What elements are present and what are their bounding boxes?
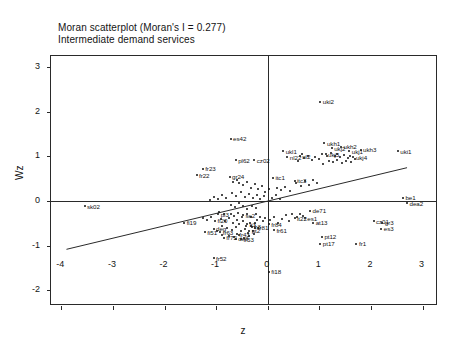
data-point bbox=[341, 162, 343, 164]
x-tick-label: -3 bbox=[108, 259, 116, 269]
data-point bbox=[336, 159, 338, 161]
data-point bbox=[319, 101, 321, 103]
point-label: fr1 bbox=[359, 240, 366, 247]
y-tick bbox=[47, 290, 51, 291]
data-point bbox=[230, 138, 232, 140]
data-point bbox=[235, 159, 237, 161]
data-point bbox=[214, 220, 216, 222]
x-tick-label: -4 bbox=[56, 259, 64, 269]
data-point bbox=[262, 220, 264, 222]
data-point bbox=[242, 214, 244, 216]
data-point bbox=[210, 216, 212, 218]
y-tick bbox=[47, 201, 51, 202]
data-point bbox=[264, 217, 266, 219]
data-point bbox=[312, 222, 314, 224]
data-point bbox=[261, 185, 263, 187]
point-label: es1 bbox=[307, 215, 317, 222]
point-label: pt2 bbox=[252, 227, 260, 234]
y-tick bbox=[47, 67, 51, 68]
data-point bbox=[246, 208, 248, 210]
data-point bbox=[308, 184, 310, 186]
data-point bbox=[321, 236, 323, 238]
data-point bbox=[251, 205, 253, 207]
data-point bbox=[229, 176, 231, 178]
point-label: pl3 bbox=[221, 211, 229, 218]
data-point bbox=[257, 188, 259, 190]
data-point bbox=[322, 163, 324, 165]
data-point bbox=[242, 220, 244, 222]
chart-title-block: Moran scatterplot (Moran's I = 0.277) In… bbox=[58, 22, 226, 46]
point-label: uki2 bbox=[323, 98, 334, 105]
data-point bbox=[319, 243, 321, 245]
point-label: itc1 bbox=[275, 174, 284, 181]
x-tick-label: 3 bbox=[419, 259, 424, 269]
data-point bbox=[246, 181, 248, 183]
data-point bbox=[259, 216, 261, 218]
x-tick-label: 0 bbox=[264, 259, 269, 269]
data-point bbox=[240, 191, 242, 193]
data-point bbox=[325, 153, 327, 155]
data-point bbox=[275, 194, 277, 196]
point-label: at13 bbox=[316, 219, 328, 226]
data-point bbox=[268, 271, 270, 273]
data-point bbox=[223, 237, 225, 239]
x-tick bbox=[216, 306, 217, 310]
data-point bbox=[242, 205, 244, 207]
data-point bbox=[209, 199, 211, 201]
data-point bbox=[264, 191, 266, 193]
data-point bbox=[397, 150, 399, 152]
x-tick bbox=[165, 306, 166, 310]
data-point bbox=[355, 243, 357, 245]
data-point bbox=[406, 202, 408, 204]
point-label: fr72 bbox=[226, 234, 236, 241]
data-point bbox=[345, 160, 347, 162]
point-label: fi18 bbox=[271, 268, 281, 275]
data-point bbox=[263, 195, 265, 197]
y-tick-label: -2 bbox=[26, 284, 40, 294]
data-point bbox=[300, 185, 302, 187]
data-point bbox=[233, 215, 235, 217]
data-point bbox=[255, 207, 257, 209]
data-point bbox=[272, 177, 274, 179]
point-label: sk02 bbox=[87, 203, 100, 210]
chart-subtitle: Intermediate demand services bbox=[58, 34, 226, 46]
point-label: nl22 bbox=[290, 154, 302, 161]
data-point bbox=[248, 193, 250, 195]
data-point bbox=[244, 228, 246, 230]
x-tick bbox=[319, 306, 320, 310]
data-point bbox=[331, 147, 333, 149]
data-point bbox=[328, 160, 330, 162]
data-point bbox=[380, 228, 382, 230]
data-point bbox=[237, 212, 239, 214]
data-point bbox=[235, 226, 237, 228]
y-tick-label: 0 bbox=[26, 195, 40, 205]
data-point bbox=[238, 223, 240, 225]
point-label: es3 bbox=[384, 225, 394, 232]
data-point bbox=[213, 196, 215, 198]
x-tick-label: 1 bbox=[316, 259, 321, 269]
data-point bbox=[238, 202, 240, 204]
x-tick bbox=[423, 306, 424, 310]
x-tick bbox=[61, 306, 62, 310]
data-point bbox=[246, 223, 248, 225]
data-point bbox=[309, 210, 311, 212]
point-label: cz02 bbox=[257, 157, 270, 164]
data-point bbox=[318, 158, 320, 160]
point-label: se2 bbox=[245, 212, 255, 219]
point-label: es42 bbox=[233, 135, 246, 142]
data-point bbox=[373, 220, 375, 222]
data-point bbox=[230, 213, 232, 215]
data-point bbox=[252, 197, 254, 199]
data-point bbox=[204, 231, 206, 233]
data-point bbox=[273, 216, 275, 218]
data-point bbox=[217, 213, 219, 215]
point-label: itc3 bbox=[297, 177, 306, 184]
point-label: dea2 bbox=[410, 200, 424, 207]
data-point bbox=[281, 218, 283, 220]
moran-scatterplot: Moran scatterplot (Moran's I = 0.277) In… bbox=[0, 0, 467, 344]
point-label: fi51 bbox=[207, 229, 217, 236]
data-point bbox=[259, 198, 261, 200]
x-tick-label: 2 bbox=[367, 259, 372, 269]
x-tick bbox=[371, 306, 372, 310]
data-point bbox=[314, 156, 316, 158]
